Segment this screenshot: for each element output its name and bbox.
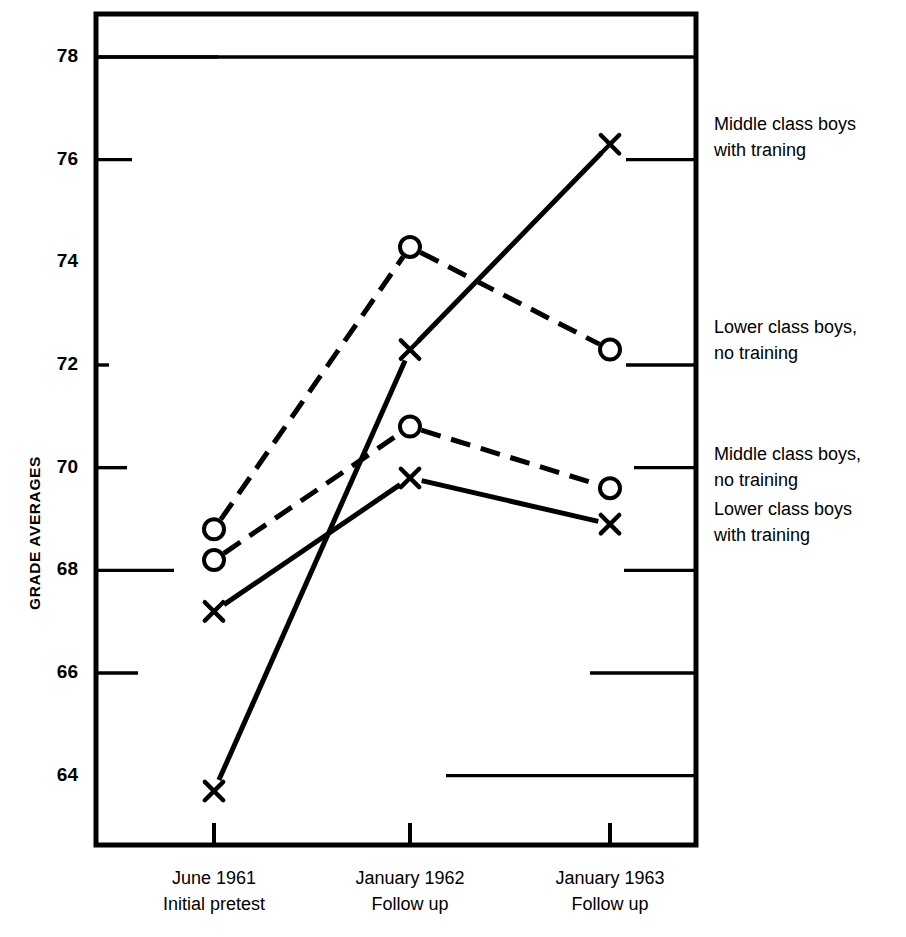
y-tick-label: 78 — [36, 45, 78, 67]
data-point-marker — [205, 782, 223, 800]
data-series-group — [204, 135, 620, 800]
legend-entry-line2: with training — [714, 523, 852, 549]
legend-entry-line2: no training — [714, 341, 857, 367]
y-tick-label: 70 — [36, 456, 78, 478]
y-tick-label: 72 — [36, 353, 78, 375]
legend-entry-line1: Lower class boys — [714, 497, 852, 523]
y-tick-label: 64 — [36, 764, 78, 786]
x-tick-label: January 1962Follow up — [315, 866, 505, 917]
y-tick-label: 66 — [36, 661, 78, 683]
data-point-marker — [401, 469, 419, 487]
chart-container: GRADE AVERAGES 7876747270686664 June 196… — [0, 0, 906, 937]
x-tick-label: June 1961Initial pretest — [119, 866, 309, 917]
legend-entry-line2: with traning — [714, 138, 856, 164]
x-tick-label-line2: Follow up — [515, 892, 705, 918]
y-tick-label: 76 — [36, 148, 78, 170]
y-axis-title: GRADE AVERAGES — [26, 456, 44, 610]
x-tick-label-line1: January 1963 — [515, 866, 705, 892]
axis-ticks — [96, 57, 696, 845]
data-point-marker — [400, 237, 420, 257]
y-tick-label: 74 — [36, 250, 78, 272]
x-tick-label-line1: June 1961 — [119, 866, 309, 892]
data-point-marker — [601, 515, 619, 533]
x-tick-label-line2: Follow up — [315, 892, 505, 918]
legend-entry: Lower class boyswith training — [714, 497, 852, 549]
data-point-marker — [601, 135, 619, 153]
data-point-marker — [205, 602, 223, 620]
data-point-marker — [401, 340, 419, 358]
legend-entry: Middle class boys,no training — [714, 442, 861, 494]
x-tick-label: January 1963Follow up — [515, 866, 705, 917]
x-tick-label-line2: Initial pretest — [119, 892, 309, 918]
x-tick-label-line1: January 1962 — [315, 866, 505, 892]
data-point-marker — [400, 417, 420, 437]
legend-entry: Middle class boyswith traning — [714, 112, 856, 164]
data-point-marker — [600, 478, 620, 498]
legend-entry: Lower class boys,no training — [714, 315, 857, 367]
legend-entry-line1: Middle class boys — [714, 112, 856, 138]
data-point-marker — [204, 519, 224, 539]
data-point-marker — [204, 550, 224, 570]
legend-entry-line1: Middle class boys, — [714, 442, 861, 468]
data-point-marker — [600, 340, 620, 360]
legend-entry-line1: Lower class boys, — [714, 315, 857, 341]
y-tick-label: 68 — [36, 558, 78, 580]
legend-entry-line2: no training — [714, 468, 861, 494]
